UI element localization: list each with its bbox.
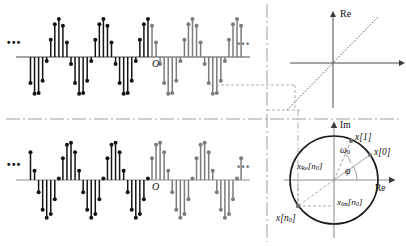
stem-marker — [199, 143, 203, 147]
bottom-ellipsis-left: ••• — [7, 160, 22, 170]
stem-marker — [65, 143, 69, 147]
point-x1 — [349, 139, 353, 143]
stem-marker — [215, 91, 219, 95]
stem-marker — [158, 141, 162, 145]
stem-marker — [118, 81, 122, 85]
stem-marker — [130, 79, 134, 83]
stem-marker — [239, 156, 243, 160]
stem-marker — [154, 143, 158, 147]
stem-marker — [215, 190, 219, 194]
bottom-ellipsis-right: ••• — [237, 163, 251, 172]
stem-marker — [235, 176, 239, 180]
stem-marker — [239, 24, 243, 28]
stem-marker — [211, 92, 215, 96]
stem-marker — [166, 169, 170, 173]
stem-marker — [45, 59, 49, 63]
stem-marker — [45, 216, 49, 220]
top-ellipsis-left: ••• — [7, 38, 22, 48]
stem-marker — [97, 197, 101, 201]
stem-marker — [134, 216, 138, 220]
stem-marker — [93, 212, 97, 216]
stem-marker — [178, 59, 182, 63]
stem-marker — [182, 212, 186, 216]
stem-marker — [110, 41, 114, 45]
stem-marker — [182, 38, 186, 42]
stem-marker — [85, 79, 89, 83]
stem-marker — [178, 216, 182, 220]
x-re-n0-label: xRe[n0] — [297, 162, 322, 171]
point-x0 — [368, 153, 372, 157]
stem-marker — [138, 212, 142, 216]
stem-marker — [191, 17, 195, 21]
stem-marker — [227, 38, 231, 42]
stem-marker — [69, 141, 73, 145]
stem-marker — [186, 22, 190, 26]
phasor-xn0-vector — [298, 180, 334, 206]
stem-marker — [89, 59, 93, 63]
stem-marker — [235, 17, 239, 21]
stem-marker — [65, 41, 69, 45]
stem-marker — [174, 208, 178, 212]
stem-marker — [29, 150, 33, 154]
stem-marker — [154, 41, 158, 45]
stem-marker — [37, 91, 41, 95]
stem-marker — [195, 24, 199, 28]
stem-marker — [101, 17, 105, 21]
stem-marker — [118, 150, 122, 154]
stem-marker — [33, 92, 37, 96]
stem-marker — [69, 62, 73, 66]
stem-marker — [57, 176, 61, 180]
stem-marker — [130, 208, 134, 212]
top-ellipsis-right: ••• — [237, 40, 251, 49]
stem-marker — [231, 197, 235, 201]
stem-marker — [29, 81, 33, 85]
stem-marker — [114, 62, 118, 66]
stem-marker — [89, 216, 93, 220]
omega-label: ω0 — [340, 146, 350, 156]
stem-marker — [150, 156, 154, 160]
stem-marker — [203, 141, 207, 145]
stem-marker — [122, 169, 126, 173]
stem-marker — [174, 79, 178, 83]
stem-marker — [126, 91, 130, 95]
complex-plane-phasor-diagram — [284, 110, 390, 238]
stem-marker — [195, 156, 199, 160]
stem-marker — [170, 190, 174, 194]
re-axis-label-phasor: Re — [375, 184, 386, 194]
stem-marker — [186, 197, 190, 201]
stem-marker — [211, 169, 215, 173]
stem-marker — [33, 169, 37, 173]
stem-marker — [146, 176, 150, 180]
stem-marker — [122, 92, 126, 96]
stem-marker — [73, 81, 77, 85]
stem-marker — [146, 17, 150, 21]
stem-marker — [191, 176, 195, 180]
stem-marker — [166, 92, 170, 96]
phasor-x0-vector — [334, 155, 370, 180]
bottom-origin-label: O — [152, 182, 159, 192]
figure-container: ••• ••• O ••• ••• O Re Im Re x[1] x[0] ω… — [0, 0, 406, 246]
x-im-n0-label: xIm[n0] — [337, 198, 362, 207]
stem-marker — [85, 208, 89, 212]
stem-marker — [53, 197, 57, 201]
stem-marker — [227, 212, 231, 216]
stem-marker — [142, 197, 146, 201]
im-axis-label: Im — [340, 121, 351, 131]
stem-marker — [114, 141, 118, 145]
stem-marker — [77, 169, 81, 173]
stem-marker — [203, 62, 207, 66]
stem-marker — [73, 150, 77, 154]
re-axis-diagonal-plot — [211, 16, 400, 110]
stem-marker — [49, 212, 53, 216]
stem-marker — [162, 150, 166, 154]
stem-marker — [138, 38, 142, 42]
stem-marker — [81, 91, 85, 95]
re-axis-label-top: Re — [340, 9, 351, 19]
phi-label: φ — [345, 166, 351, 176]
stem-marker — [93, 38, 97, 42]
stem-marker — [110, 143, 114, 147]
stem-marker — [126, 190, 130, 194]
imaginary-part-stem-plot — [16, 141, 250, 220]
stem-marker — [61, 24, 65, 28]
stem-marker — [77, 92, 81, 96]
